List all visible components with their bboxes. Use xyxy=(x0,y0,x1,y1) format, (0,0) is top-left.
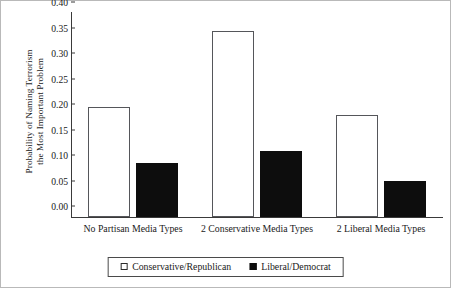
legend-entry[interactable]: Liberal/Democrat xyxy=(249,261,331,272)
x-axis-category-label: No Partisan Media Types xyxy=(84,223,183,234)
y-axis-tick-label: 0.30 xyxy=(51,48,71,59)
bar-group xyxy=(195,13,319,217)
y-axis-tick: 0.25 xyxy=(51,73,71,84)
bar-liberal-democrat xyxy=(384,181,426,217)
bar-conservative-republican xyxy=(212,31,254,217)
y-axis-tick-label: 0.00 xyxy=(51,201,71,212)
y-axis-title: Probability of Naming Terrorism the Most… xyxy=(15,1,55,221)
y-axis-tick: 0.05 xyxy=(51,175,71,186)
bar-conservative-republican xyxy=(88,107,130,217)
y-axis-tick-label: 0.10 xyxy=(51,150,71,161)
bar-liberal-democrat xyxy=(136,163,178,217)
y-axis-title-line-2: the Most Important Problem xyxy=(35,49,46,173)
y-axis-tick-label: 0.35 xyxy=(51,22,71,33)
legend-label: Conservative/Republican xyxy=(132,261,231,272)
y-axis-tick: 0.00 xyxy=(51,201,71,212)
y-axis-tick: 0.30 xyxy=(51,48,71,59)
legend-swatch-filled xyxy=(249,263,256,270)
y-axis-tick: 0.15 xyxy=(51,124,71,135)
y-axis-tick-label: 0.25 xyxy=(51,73,71,84)
x-axis-category-label: 2 Conservative Media Types xyxy=(201,223,313,234)
y-axis-tick: 0.35 xyxy=(51,22,71,33)
y-axis-tick-label: 0.20 xyxy=(51,99,71,110)
y-axis-title-line-1: Probability of Naming Terrorism xyxy=(24,49,35,173)
y-axis-tick-label: 0.05 xyxy=(51,175,71,186)
y-axis-tick: 0.40 xyxy=(51,0,71,8)
bar-group xyxy=(319,13,443,217)
bar-conservative-republican xyxy=(336,115,378,217)
plot-area: 0.000.050.100.150.200.250.300.350.40 xyxy=(71,13,443,217)
y-axis-tick-label: 0.40 xyxy=(51,0,71,8)
chart-legend: Conservative/RepublicanLiberal/Democrat xyxy=(107,257,344,277)
x-axis-category-label: 2 Liberal Media Types xyxy=(337,223,426,234)
bar-liberal-democrat xyxy=(260,151,302,217)
figure-panel: Probability of Naming Terrorism the Most… xyxy=(0,0,451,288)
y-axis-tick: 0.10 xyxy=(51,150,71,161)
legend-entry[interactable]: Conservative/Republican xyxy=(120,261,231,272)
y-axis-tick-label: 0.15 xyxy=(51,124,71,135)
y-axis-tick-mark xyxy=(71,2,75,3)
legend-swatch-open xyxy=(120,263,127,270)
x-axis-line xyxy=(71,217,443,218)
legend-label: Liberal/Democrat xyxy=(261,261,331,272)
bar-group xyxy=(71,13,195,217)
y-axis-tick: 0.20 xyxy=(51,99,71,110)
